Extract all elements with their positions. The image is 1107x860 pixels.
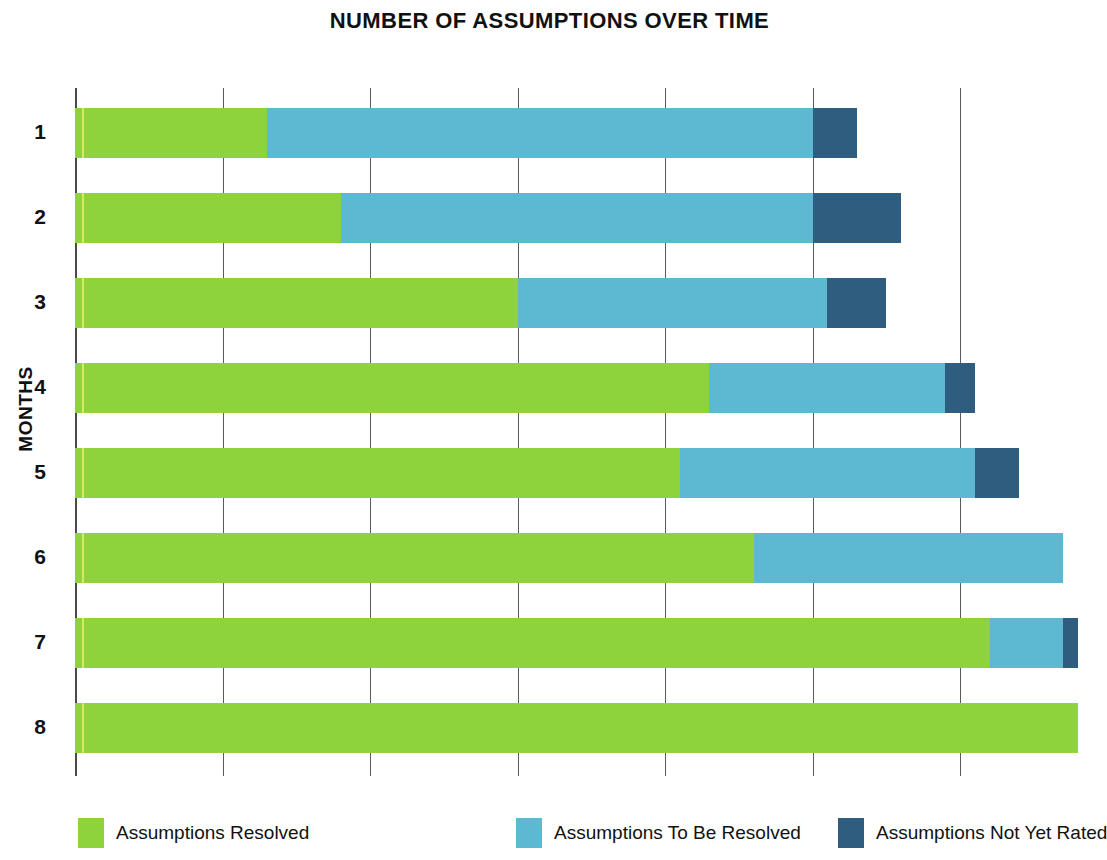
gridline [370,88,371,776]
y-tick-label-month-8: 8 [0,715,46,739]
gridline [665,88,666,776]
chart-legend: Assumptions ResolvedAssumptions To Be Re… [0,818,1099,858]
gridline [960,88,961,776]
gridline [813,88,814,776]
legend-label: Assumptions Resolved [116,822,309,844]
bar-segment-to-be-resolved [518,278,828,328]
legend-label: Assumptions To Be Resolved [554,822,801,844]
legend-item-not-rated[interactable]: Assumptions Not Yet Rated [838,818,1107,848]
bar-segment-not-rated [827,278,886,328]
bar-segment-not-rated [1063,618,1078,668]
bar-segment-not-rated [945,363,975,413]
bar-segment-resolved [75,108,267,158]
bar-segment-to-be-resolved [267,108,813,158]
bar-segment-to-be-resolved [754,533,1064,583]
chart-title: NUMBER OF ASSUMPTIONS OVER TIME [0,8,1099,34]
legend-swatch-not-rated-icon [838,818,864,848]
bar-segment-resolved [75,193,341,243]
bar-segment-not-rated [813,193,902,243]
bar-segment-to-be-resolved [990,618,1064,668]
legend-item-resolved[interactable]: Assumptions Resolved [78,818,309,848]
y-tick-label-month-5: 5 [0,460,46,484]
y-tick-label-month-7: 7 [0,630,46,654]
legend-swatch-resolved-icon [78,818,104,848]
legend-label: Assumptions Not Yet Rated [876,822,1107,844]
bar-segment-resolved [75,533,754,583]
y-axis-line [75,88,77,776]
bar-segment-to-be-resolved [680,448,975,498]
bar-segment-resolved [75,363,709,413]
gridline [223,88,224,776]
bar-segment-resolved [75,448,680,498]
y-tick-label-month-1: 1 [0,120,46,144]
y-tick-label-month-4: 4 [0,375,46,399]
y-axis-title: MONTHS [15,349,37,469]
legend-item-to-be-resolved[interactable]: Assumptions To Be Resolved [516,818,801,848]
bar-segment-to-be-resolved [341,193,813,243]
bar-segment-to-be-resolved [709,363,945,413]
y-tick-label-month-2: 2 [0,205,46,229]
bar-segment-resolved [75,618,990,668]
bar-segment-not-rated [813,108,857,158]
y-tick-label-month-6: 6 [0,545,46,569]
bar-segment-resolved [75,278,518,328]
bar-segment-resolved [75,703,1078,753]
bar-segment-not-rated [975,448,1019,498]
y-tick-label-month-3: 3 [0,290,46,314]
gridline [518,88,519,776]
plot-area [75,88,1085,776]
legend-swatch-to-be-resolved-icon [516,818,542,848]
